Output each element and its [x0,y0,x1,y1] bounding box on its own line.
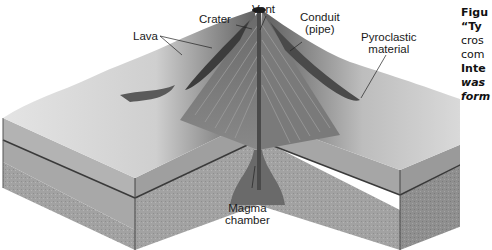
label-pyroclastic-line1: Pyroclastic [361,31,417,43]
label-magma-chamber: Magma chamber [225,202,270,226]
figure-caption: Figu “Ty cros com Inte was form [461,6,492,104]
caption-line-6: was [461,76,492,90]
conduit-pipe [257,10,261,190]
caption-line-5: Inte [461,62,492,76]
label-magma-line1: Magma [225,202,270,214]
label-conduit-line1: Conduit [300,11,340,23]
caption-line-4: com [461,48,492,62]
label-pyroclastic-material: Pyroclastic material [361,31,417,55]
caption-line-3: cros [461,34,492,48]
label-vent: Vent [252,3,275,15]
caption-line-7: form [461,90,492,104]
caption-line-2: “Ty [461,20,492,34]
label-crater: Crater [199,13,231,25]
label-pyroclastic-line2: material [361,43,417,55]
volcano-diagram: Lava Crater Vent Conduit (pipe) Pyroclas… [0,0,460,250]
label-conduit: Conduit (pipe) [300,11,340,35]
label-magma-line2: chamber [225,214,270,226]
caption-line-1: Figu [461,6,492,20]
label-lava: Lava [133,30,158,42]
label-conduit-line2: (pipe) [300,23,340,35]
